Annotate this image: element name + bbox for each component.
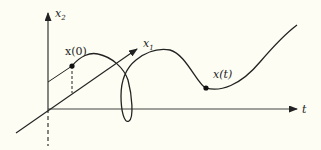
x0-label: x(0) [65,45,87,58]
xt-point [203,85,208,90]
x1-axis-label: x1 [143,37,154,52]
trajectory-curve [72,25,297,121]
trajectory-figure: x2 x1 t x(0) x(t) [0,0,321,150]
t-axis-label: t [302,103,307,116]
trajectory-diagram: x2 x1 t x(0) x(t) [0,0,321,150]
x0-projection-parallel [48,66,72,82]
xt-label: x(t) [213,68,232,81]
x0-point [69,63,74,68]
x2-axis-label: x2 [55,7,66,22]
